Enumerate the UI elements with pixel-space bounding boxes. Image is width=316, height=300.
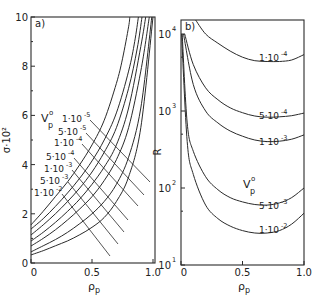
curve-label-exponent: -3 <box>66 161 72 169</box>
y-tick-exponent: 2 <box>172 179 176 187</box>
curve-label-exponent: -4 <box>281 108 287 116</box>
x-tick-label: 0.5 <box>84 267 100 278</box>
panel-b-x-axis: 00.51.0 <box>181 261 312 278</box>
panel-b-legend-title: V o p <box>243 175 255 196</box>
curve-label-exponent: -2 <box>281 222 287 230</box>
panel-a-x-axis: 00.51.0 <box>31 259 161 278</box>
x-tick-label: 1.0 <box>296 267 312 278</box>
curve-label: 1·10 <box>62 114 82 124</box>
panel-a-y-axis: 0246810 <box>15 12 35 269</box>
legend-title-sup: o <box>251 175 255 183</box>
x-tick-label: 0.5 <box>235 267 251 278</box>
panel-a-y-axis-label: σ·10² <box>1 127 12 153</box>
curve <box>195 18 305 61</box>
x-label-rho: ρ <box>238 280 245 293</box>
y-tick-label: 10 <box>15 12 28 23</box>
y-tick-label: 10 <box>158 260 171 271</box>
leader-line <box>74 158 128 220</box>
y-tick-label: 2 <box>22 209 28 220</box>
curve-label: 1·10 <box>259 137 279 147</box>
panel-b-curve-labels: 1·10-45·10-41·10-35·10-31·10-2 <box>259 50 287 235</box>
curve-label-exponent: -4 <box>281 50 287 58</box>
curve-label: 5·10 <box>259 201 279 211</box>
y-tick-label: 0 <box>22 258 28 269</box>
curve-label-exponent: -4 <box>76 135 82 143</box>
x-label-sub: p <box>245 286 250 295</box>
panel-a: a) 0246810 00.51.0 σ·10² ρ p V o p 1·10-… <box>1 12 161 295</box>
curve <box>31 17 149 246</box>
y-tick-label: 8 <box>22 61 28 72</box>
curve-label-exponent: -5 <box>80 124 86 132</box>
panel-b-label: b) <box>185 21 195 32</box>
curve <box>31 17 152 252</box>
y-tick-label: 10 <box>158 29 171 40</box>
panel-a-x-axis-label: ρ p <box>88 280 100 295</box>
curve-label-exponent: -4 <box>68 149 74 157</box>
legend-title-sup: o <box>49 109 53 117</box>
figure: a) 0246810 00.51.0 σ·10² ρ p V o p 1·10-… <box>0 0 316 300</box>
curve-label: 1·10 <box>34 188 54 198</box>
panel-a-curves <box>31 17 153 255</box>
curve-label-exponent: -2 <box>56 185 62 193</box>
y-tick-label: 10 <box>158 183 171 194</box>
panel-b-x-axis-label: ρ p <box>238 280 250 295</box>
y-tick-label: 4 <box>22 160 28 171</box>
panel-b: b) 101102103104 00.51.0 R ρ p V o p 1·10… <box>152 18 312 295</box>
curve <box>185 34 304 117</box>
curve-label: 5·10 <box>259 111 279 121</box>
legend-title-sub: p <box>48 121 53 130</box>
y-tick-label: 10 <box>158 106 171 117</box>
y-tick-exponent: 1 <box>172 256 176 264</box>
curve-label-exponent: -3 <box>281 134 287 142</box>
x-label-sub: p <box>95 286 100 295</box>
x-tick-label: 0 <box>31 267 37 278</box>
y-tick-label: 6 <box>22 110 28 121</box>
curve-label-exponent: -5 <box>84 111 90 119</box>
leader-line <box>86 133 144 195</box>
curve-label: 1·10 <box>259 225 279 235</box>
panel-b-y-axis-label: R <box>152 148 163 155</box>
legend-title-sub: p <box>250 187 255 196</box>
curve-label: 1·10 <box>259 53 279 63</box>
curve-label-exponent: -3 <box>281 198 287 206</box>
y-tick-exponent: 3 <box>172 102 176 110</box>
curve-label: 1·10 <box>54 138 74 148</box>
y-tick-exponent: 4 <box>172 25 176 33</box>
chart-canvas: a) 0246810 00.51.0 σ·10² ρ p V o p 1·10-… <box>0 0 316 300</box>
panel-a-legend-title: V o p <box>41 109 53 130</box>
curve-label: 5·10 <box>46 152 66 162</box>
x-label-rho: ρ <box>88 280 95 293</box>
panel-a-label: a) <box>35 18 45 29</box>
curve-label-exponent: -3 <box>62 173 68 181</box>
x-tick-label: 0 <box>181 267 187 278</box>
